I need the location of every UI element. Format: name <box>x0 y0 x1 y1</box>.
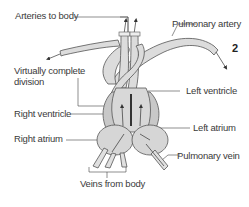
label-virtually-complete-division-2: division <box>14 76 44 87</box>
label-left-atrium: Left atrium <box>193 122 236 133</box>
label-arteries-to-body: Arteries to body <box>15 10 78 21</box>
heart-diagram <box>0 0 249 207</box>
label-left-ventricle: Left ventricle <box>186 85 237 96</box>
label-pulmonary-artery: Pulmonary artery <box>172 18 241 29</box>
label-veins-from-body: Veins from body <box>80 178 145 189</box>
figure-number: 2 <box>232 42 238 54</box>
label-pulmonary-vein: Pulmonary vein <box>177 150 240 161</box>
label-right-ventricle: Right ventricle <box>14 108 71 119</box>
label-virtually-complete-division-1: Virtually complete <box>14 65 85 76</box>
label-right-atrium: Right atrium <box>14 133 63 144</box>
